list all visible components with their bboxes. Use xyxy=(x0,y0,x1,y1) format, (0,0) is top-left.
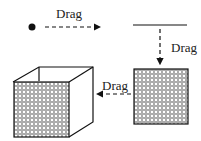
drag-label-down: Drag xyxy=(171,41,197,54)
dimension-diagram xyxy=(0,0,201,141)
drag-label-right: Drag xyxy=(56,7,82,20)
point-dot xyxy=(29,24,36,31)
square-face xyxy=(134,69,188,124)
cube xyxy=(13,67,93,137)
drag-label-left: Drag xyxy=(102,79,128,92)
